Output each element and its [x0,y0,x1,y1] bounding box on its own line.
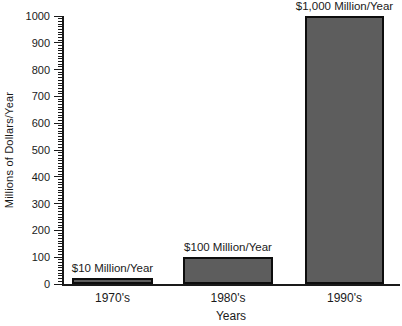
y-minor-tick [58,18,63,19]
y-minor-tick [58,24,63,25]
bar-value-label-1970s: $10 Million/Year [72,262,153,275]
y-minor-tick [58,184,63,185]
y-minor-tick [58,91,63,92]
y-major-tick [54,257,63,258]
y-tick-label: 500 [32,145,50,156]
y-minor-tick [58,278,63,279]
y-minor-tick [58,200,63,201]
y-minor-tick [58,259,63,260]
bar-value-label-1990s: $1,000 Million/Year [296,0,393,13]
y-minor-tick [58,171,63,172]
y-tick-label: 400 [32,171,50,182]
y-minor-tick [58,160,63,161]
y-minor-tick [58,152,63,153]
y-minor-tick [58,187,63,188]
y-minor-tick [58,26,63,27]
y-minor-tick [58,48,63,49]
y-tick-label: 700 [32,91,50,102]
y-minor-tick [58,166,63,167]
y-major-tick [54,150,63,151]
y-minor-tick [58,243,63,244]
y-minor-tick [58,64,63,65]
y-tick-label: 1000 [26,11,50,22]
plot-area: 01002003004005006007008009001000$10 Mill… [62,16,400,286]
y-minor-tick [58,192,63,193]
y-minor-tick [58,34,63,35]
y-major-tick [54,69,63,70]
y-minor-tick [58,206,63,207]
y-minor-tick [58,93,63,94]
y-minor-tick [58,235,63,236]
y-minor-tick [58,225,63,226]
y-tick-label: 0 [44,279,50,290]
y-minor-tick [58,85,63,86]
y-minor-tick [58,66,63,67]
y-minor-tick [58,174,63,175]
y-tick-label: 600 [32,118,50,129]
y-minor-tick [58,168,63,169]
y-major-tick [54,42,63,43]
y-major-tick [54,96,63,97]
y-minor-tick [58,74,63,75]
y-minor-tick [58,37,63,38]
y-minor-tick [58,190,63,191]
y-minor-tick [58,117,63,118]
y-minor-tick [58,112,63,113]
bar-1980s [183,257,273,284]
y-minor-tick [58,80,63,81]
x-category-label-1990s: 1990's [327,291,362,305]
y-major-tick [54,123,63,124]
y-minor-tick [58,109,63,110]
y-minor-tick [58,136,63,137]
y-minor-tick [58,262,63,263]
x-axis-title: Years [62,309,400,323]
y-major-tick [54,284,63,285]
y-minor-tick [58,198,63,199]
x-category-label-1970s: 1970's [95,291,130,305]
y-minor-tick [58,53,63,54]
y-minor-tick [58,88,63,89]
y-major-tick [54,16,63,17]
y-minor-tick [58,107,63,108]
y-minor-tick [58,77,63,78]
y-minor-tick [58,281,63,282]
y-minor-tick [58,163,63,164]
y-minor-tick [58,50,63,51]
y-minor-tick [58,61,63,62]
y-minor-tick [58,131,63,132]
y-minor-tick [58,222,63,223]
y-minor-tick [58,254,63,255]
y-minor-tick [58,265,63,266]
y-minor-tick [58,251,63,252]
y-minor-tick [58,120,63,121]
y-minor-tick [58,273,63,274]
y-minor-tick [58,83,63,84]
y-minor-tick [58,249,63,250]
y-minor-tick [58,72,63,73]
y-tick-label: 100 [32,252,50,263]
bar-value-label-1980s: $100 Million/Year [184,241,272,254]
y-tick-label: 300 [32,198,50,209]
y-major-tick [54,230,63,231]
y-minor-tick [58,182,63,183]
y-minor-tick [58,238,63,239]
y-minor-tick [58,21,63,22]
y-minor-tick [58,270,63,271]
y-minor-tick [58,133,63,134]
y-minor-tick [58,32,63,33]
y-minor-tick [58,158,63,159]
y-tick-label: 900 [32,37,50,48]
y-minor-tick [58,104,63,105]
y-tick-label: 800 [32,64,50,75]
y-minor-tick [58,139,63,140]
y-tick-label: 200 [32,225,50,236]
bar-1990s [305,16,384,284]
y-minor-tick [58,267,63,268]
y-minor-tick [58,58,63,59]
y-minor-tick [58,275,63,276]
bar-chart-figure: Millions of Dollars/Year 010020030040050… [0,0,402,326]
y-minor-tick [58,40,63,41]
y-minor-tick [58,214,63,215]
y-minor-tick [58,128,63,129]
y-minor-tick [58,29,63,30]
